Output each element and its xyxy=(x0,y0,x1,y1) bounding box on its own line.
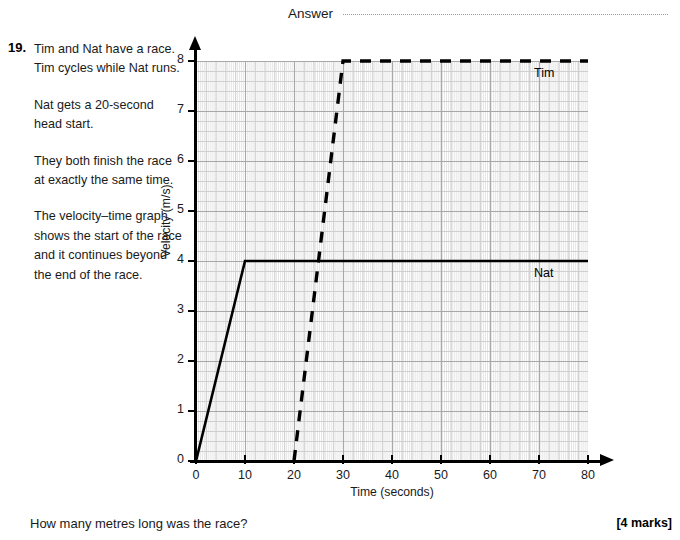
answer-row: Answer xyxy=(288,6,668,28)
series-label-tim: Tim xyxy=(534,66,554,80)
series-label-nat: Nat xyxy=(534,266,553,280)
series-line-nat xyxy=(196,261,588,461)
answer-write-line[interactable] xyxy=(343,13,668,15)
velocity-time-graph: 012345678 01020304050607080 Velocity (m/… xyxy=(150,34,640,489)
marks-badge: [4 marks] xyxy=(616,516,672,530)
question-number: 19. xyxy=(8,40,26,55)
question-prompt: How many metres long was the race? xyxy=(30,516,247,531)
series-layer xyxy=(150,34,640,489)
answer-label: Answer xyxy=(288,6,333,21)
